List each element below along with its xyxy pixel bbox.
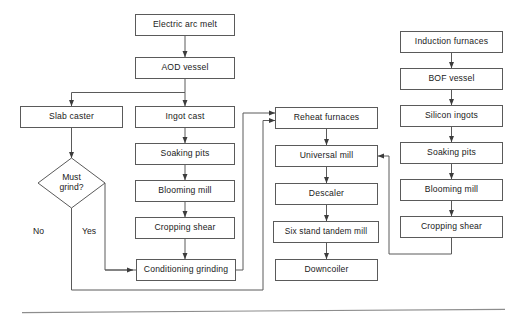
must-grind-label: Must grind? (60, 173, 84, 193)
node-downcoiler[interactable]: Downcoiler (275, 259, 378, 281)
node-six-stand-tandem-mill[interactable]: Six stand tandem mill (273, 221, 379, 243)
node-blooming-mill-right[interactable]: Blooming mill (400, 179, 503, 201)
edge-cropping-shear-right-to-universal-mill (378, 156, 452, 254)
node-descaler[interactable]: Descaler (275, 183, 378, 205)
edge-label-yes: Yes (82, 227, 96, 236)
node-slab-caster[interactable]: Slab caster (20, 106, 123, 128)
must-grind-line-2: grind? (60, 182, 84, 192)
node-conditioning-grinding[interactable]: Conditioning grinding (136, 259, 236, 281)
node-cropping-shear-right[interactable]: Cropping shear (400, 216, 503, 238)
node-ingot-cast[interactable]: Ingot cast (135, 106, 235, 128)
node-aod-vessel[interactable]: AOD vessel (135, 57, 235, 79)
flowchart-canvas: Electric arc melt AOD vessel Slab caster… (0, 0, 522, 328)
must-grind-line-1: Must (62, 172, 81, 182)
node-induction-furnaces[interactable]: Induction furnaces (400, 31, 503, 53)
node-reheat-furnaces[interactable]: Reheat furnaces (275, 107, 378, 129)
node-cropping-shear-left[interactable]: Cropping shear (135, 217, 235, 239)
node-must-grind-decision[interactable]: Must grind? (38, 158, 105, 208)
page-rule (22, 309, 505, 312)
node-blooming-mill-left[interactable]: Blooming mill (135, 180, 235, 202)
node-universal-mill[interactable]: Universal mill (275, 145, 378, 167)
node-bof-vessel[interactable]: BOF vessel (400, 68, 503, 90)
node-soaking-pits-right[interactable]: Soaking pits (400, 142, 503, 164)
edge-conditioning-grinding-to-reheat-furnaces (236, 113, 275, 270)
node-electric-arc-melt[interactable]: Electric arc melt (135, 14, 235, 36)
node-silicon-ingots[interactable]: Silicon ingots (400, 105, 503, 127)
edge-label-no: No (33, 227, 44, 236)
node-soaking-pits-left[interactable]: Soaking pits (135, 143, 235, 165)
